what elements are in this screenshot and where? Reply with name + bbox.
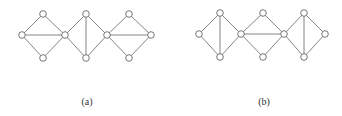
caption-a: (a) [81,96,92,107]
graph-edge [65,35,86,58]
graph-edge [129,35,151,58]
graph-node [40,11,47,18]
graph-node [126,55,133,62]
graph-node [19,32,26,39]
graph-edge [43,14,65,35]
graph-edge [263,13,284,34]
graph-node [148,32,155,39]
graph-edge [304,34,325,57]
graph-edge [22,14,43,35]
caption-b: (b) [258,96,270,107]
graph-node [62,32,69,39]
graph-node [196,31,203,38]
graph-edge [86,35,107,58]
graph-edge [199,34,220,57]
graph-edge [220,34,241,57]
graph-node [217,10,224,17]
graph-edge [199,13,220,34]
graph-node [281,31,288,38]
graph-edge [107,35,129,58]
graph-edge [107,14,129,35]
graph-node [238,31,245,38]
graph-b [196,10,329,61]
graph-edge [129,14,151,35]
graph-node [301,54,308,61]
graph-edge [43,35,65,58]
graph-edge [284,13,304,34]
graph-diagram-canvas [0,0,342,116]
graph-edge [241,13,263,34]
graph-a [19,11,155,62]
graph-node [104,32,111,39]
graph-node [301,10,308,17]
graph-node [126,11,133,18]
graph-node [322,31,329,38]
graph-node [260,10,267,17]
graph-edge [304,13,325,34]
graph-edge [86,14,107,35]
graph-edge [65,14,86,35]
graph-node [40,55,47,62]
graph-edge [22,35,43,58]
graph-node [260,54,267,61]
graph-edge [220,13,241,34]
graph-node [83,55,90,62]
graph-node [83,11,90,18]
graph-edge [241,34,263,57]
graph-edge [263,34,284,57]
graph-edge [284,34,304,57]
graph-node [217,54,224,61]
